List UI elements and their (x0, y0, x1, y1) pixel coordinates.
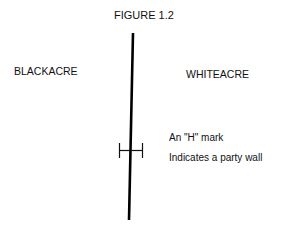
boundary-line-icon (0, 0, 284, 234)
